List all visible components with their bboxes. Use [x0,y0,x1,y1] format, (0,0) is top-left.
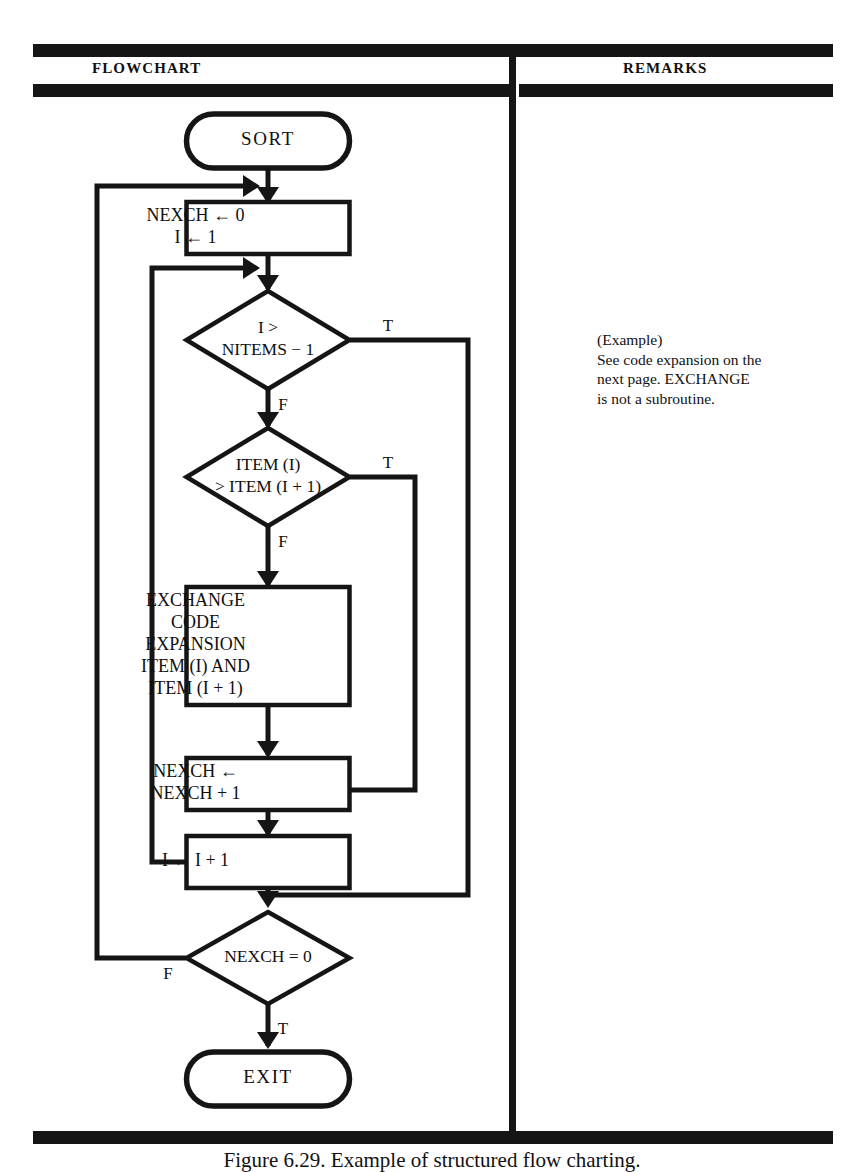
flow-node-label: EXIT [243,1066,293,1087]
branch-label-loop-test-false: F [278,395,287,414]
flow-node-start[interactable]: SORT [187,114,350,168]
flow-node-exchange[interactable]: EXCHANGECODEEXPANSIONITEM (I) ANDITEM (I… [141,587,349,705]
flow-node-done-test[interactable]: NEXCH = 0 [187,912,350,1004]
flow-node-label: CODE [171,612,220,632]
flow-node-label: ITEM (I) [236,454,301,474]
flow-node-label: EXCHANGE [146,590,245,610]
flow-node-label: NEXCH + 1 [150,783,240,803]
flow-node-label: ITEM (I) AND [141,656,250,677]
arrow-down-icon [257,741,279,758]
flow-node-label: > ITEM (I + 1) [215,476,321,496]
flow-node-init[interactable]: NEXCH ← 0I ← 1 [147,202,350,254]
flow-node-count[interactable]: NEXCH ←NEXCH + 1 [150,758,349,810]
arrow-down-icon [257,1032,279,1049]
arrow-right-icon [243,175,260,197]
flow-node-label: SORT [241,128,295,149]
flow-node-loop-test[interactable]: I >NITEMS − 1 [187,291,350,389]
branch-label-compare-true: T [383,453,394,472]
flow-node-label: NEXCH = 0 [224,946,312,966]
flow-node-label: NEXCH ← [153,761,238,781]
flow-node-label: ITEM (I + 1) [148,678,243,699]
flow-node-compare[interactable]: ITEM (I)> ITEM (I + 1) [187,428,350,526]
flow-node-increment[interactable]: I ← I + 1 [162,836,350,888]
flowchart-drawing: SORTNEXCH ← 0I ← 1I >NITEMS − 1ITEM (I)>… [0,0,864,1172]
branch-label-loop-test-true: T [383,316,394,335]
figure-page: FLOWCHART REMARKS (Example) See code exp… [0,0,864,1172]
flow-node-label: NEXCH ← 0 [147,205,245,225]
figure-caption: Figure 6.29. Example of structured flow … [0,1148,864,1172]
flow-node-label: I > [258,317,278,337]
flow-node-label: I ← 1 [175,227,217,247]
flow-node-label: I ← I + 1 [162,850,229,870]
flow-node-label: EXPANSION [145,634,245,654]
flow-node-exit[interactable]: EXIT [187,1052,350,1106]
branch-label-done-test-true: T [278,1019,289,1038]
flow-node-label: NITEMS − 1 [222,339,315,359]
arrow-right-icon [243,257,260,279]
branch-label-done-test-false: F [163,964,172,983]
branch-label-compare-false: F [278,532,287,551]
